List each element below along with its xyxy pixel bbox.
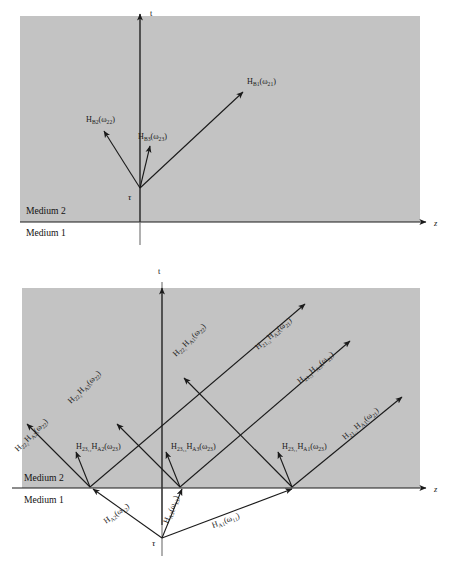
- ray-ha1-incident: [162, 489, 292, 538]
- medium2-label-bottom: Medium 2: [24, 472, 64, 483]
- top-panel: t z Medium 2 Medium 1 τ HB2(ω22) HB3(ω23…: [20, 9, 438, 245]
- medium1-label-top: Medium 1: [26, 227, 66, 238]
- axis-label-t-bottom: t: [158, 267, 161, 276]
- medium1-label-bottom: Medium 1: [24, 494, 64, 505]
- ray-ha3-label: HA3(ω13): [162, 494, 182, 525]
- tau-label-bottom: τ: [152, 538, 156, 548]
- medium2-label-top: Medium 2: [26, 205, 66, 216]
- figure-root: t z Medium 2 Medium 1 τ HB2(ω22) HB3(ω23…: [0, 0, 454, 569]
- medium2-region-top: [20, 16, 420, 222]
- axis-label-z-top: z: [433, 219, 438, 228]
- axis-label-z-bottom: z: [433, 485, 438, 494]
- ray-ha2-incident: [93, 489, 162, 538]
- bottom-panel: t z Medium 2 Medium 1 τ HA2(ω12) HA3(ω13…: [12, 267, 438, 556]
